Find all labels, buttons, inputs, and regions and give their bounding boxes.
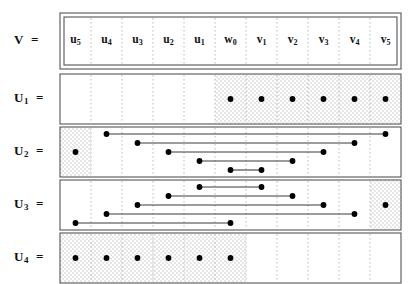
row-label-U2: U2= (14, 143, 44, 159)
column-header-subscript: 4 (108, 38, 112, 47)
column-header-subscript: 5 (77, 38, 81, 47)
row-label-base: U (14, 90, 24, 105)
column-header-subscript: 2 (170, 38, 174, 47)
row-label-subscript: 4 (24, 255, 29, 265)
segment-endpoint-dot (259, 184, 265, 190)
vertex-dot (104, 255, 110, 261)
vertex-dot (259, 96, 265, 102)
column-header-subscript: 2 (293, 38, 297, 47)
segment-endpoint-dot (383, 131, 389, 137)
column-header-u3: u3 (122, 33, 153, 47)
segment-endpoint-dot (352, 211, 358, 217)
vertex-dot (383, 202, 389, 208)
column-header-u4: u4 (91, 33, 122, 47)
shaded-regions-layer (60, 75, 401, 282)
segment-endpoint-dot (73, 220, 79, 226)
row-label-V: V= (14, 32, 39, 48)
vertex-dot (290, 96, 296, 102)
vertex-dot (383, 96, 389, 102)
column-header-v4: v4 (339, 33, 370, 47)
figure-canvas: V=U1=U2=U3=U4= u5u4u3u2u1w0v1v2v3v4v5 (0, 0, 416, 284)
column-header-subscript: 4 (355, 38, 359, 47)
vertex-dot (166, 255, 172, 261)
row-label-base: U (14, 249, 24, 264)
row-label-subscript: 1 (24, 96, 29, 106)
segment-endpoint-dot (228, 167, 234, 173)
row-label-base: U (14, 143, 24, 158)
segment-endpoint-dot (228, 220, 234, 226)
column-header-subscript: 3 (139, 38, 143, 47)
column-header-u1: u1 (184, 33, 215, 47)
segment-endpoint-dot (321, 149, 327, 155)
row-label-equals: = (31, 32, 39, 47)
segment-endpoint-dot (104, 211, 110, 217)
vertex-dot (135, 255, 141, 261)
segment-endpoint-dot (352, 140, 358, 146)
row-label-U1: U1= (14, 90, 44, 106)
vertex-dot (352, 96, 358, 102)
segment-endpoint-dot (104, 131, 110, 137)
segment-endpoint-dot (135, 202, 141, 208)
column-header-v5: v5 (370, 33, 401, 47)
column-header-w0: w0 (215, 33, 246, 47)
row-label-subscript: 3 (24, 202, 29, 212)
row-label-U3: U3= (14, 196, 44, 212)
column-header-subscript: 1 (262, 38, 266, 47)
segment-endpoint-dot (321, 202, 327, 208)
column-header-subscript: 3 (324, 38, 328, 47)
row-label-base: V (14, 32, 24, 47)
vertex-dot (321, 96, 327, 102)
column-header-subscript: 1 (201, 38, 205, 47)
segment-endpoint-dot (135, 140, 141, 146)
vertex-dot (73, 149, 79, 155)
column-header-u2: u2 (153, 33, 184, 47)
row-label-equals: = (36, 196, 44, 211)
vertex-dot (73, 255, 79, 261)
row-label-equals: = (36, 143, 44, 158)
vertex-dot (228, 255, 234, 261)
vertex-dot (228, 96, 234, 102)
vertex-dot (197, 255, 203, 261)
column-header-v2: v2 (277, 33, 308, 47)
row-label-equals: = (36, 90, 44, 105)
segment-endpoint-dot (290, 193, 296, 199)
row-label-base: U (14, 196, 24, 211)
segment-endpoint-dot (290, 158, 296, 164)
column-header-base: w (224, 33, 232, 45)
row-label-subscript: 2 (24, 149, 29, 159)
column-header-v1: v1 (246, 33, 277, 47)
row-label-equals: = (36, 249, 44, 264)
segment-endpoint-dot (166, 193, 172, 199)
segment-endpoint-dot (197, 158, 203, 164)
column-header-v3: v3 (308, 33, 339, 47)
segment-endpoint-dot (166, 149, 172, 155)
row-label-U4: U4= (14, 249, 44, 265)
column-header-u5: u5 (60, 33, 91, 47)
column-header-subscript: 0 (233, 38, 237, 47)
segment-endpoint-dot (197, 184, 203, 190)
segment-endpoint-dot (259, 167, 265, 173)
column-header-subscript: 5 (386, 38, 390, 47)
